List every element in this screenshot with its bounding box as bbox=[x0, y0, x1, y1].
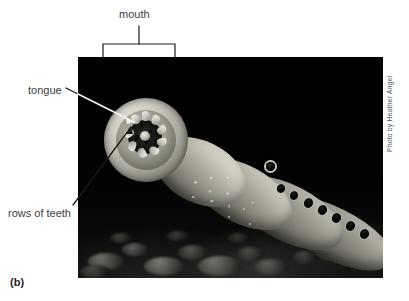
label-mouth: mouth bbox=[119, 8, 150, 20]
mouth-bracket bbox=[103, 26, 175, 57]
label-tongue: tongue bbox=[28, 84, 62, 96]
eye bbox=[266, 162, 275, 171]
lamprey-photograph bbox=[78, 57, 383, 278]
figure-panel-b: Photo by Heather Angel mouth tongue rows… bbox=[0, 0, 409, 301]
lamprey-body bbox=[78, 57, 383, 278]
tooth-inner bbox=[135, 135, 139, 140]
tongue-piston bbox=[140, 131, 150, 141]
label-rows-of-teeth: rows of teeth bbox=[8, 207, 71, 219]
figure-letter: (b) bbox=[10, 276, 24, 288]
photo-credit: Photo by Heather Angel bbox=[386, 76, 394, 152]
tooth-inner bbox=[140, 123, 144, 128]
